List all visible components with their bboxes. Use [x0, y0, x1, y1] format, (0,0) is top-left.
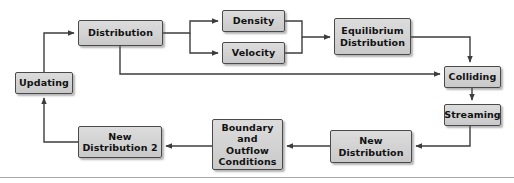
node-colliding[interactable]: Colliding — [444, 66, 501, 88]
node-updating[interactable]: Updating — [15, 72, 73, 94]
edge-newdist2-to-updating — [44, 98, 78, 142]
node-newdist[interactable]: New Distribution — [330, 130, 412, 163]
edge-distribution-to-density — [163, 21, 218, 33]
node-label: New Distribution 2 — [79, 131, 160, 154]
edge-velocity-to-equilibrium — [285, 37, 302, 53]
node-label: Boundary and Outflow Conditions — [213, 122, 282, 168]
node-label: Colliding — [446, 71, 500, 83]
node-label: Equilibrium Distribution — [337, 25, 408, 48]
bottom-divider — [0, 177, 514, 178]
node-density[interactable]: Density — [222, 10, 285, 32]
node-boundary[interactable]: Boundary and Outflow Conditions — [212, 119, 283, 170]
edge-density-to-equilibrium — [285, 21, 330, 37]
node-label: Updating — [16, 77, 72, 89]
node-label: New Distribution — [335, 135, 406, 158]
node-label: Streaming — [441, 109, 504, 121]
node-newdist2[interactable]: New Distribution 2 — [78, 126, 162, 158]
flowchart-diagram: UpdatingDistributionDensityVelocityEquil… — [0, 0, 514, 183]
node-distribution[interactable]: Distribution — [78, 20, 163, 46]
node-equilibrium[interactable]: Equilibrium Distribution — [334, 18, 411, 55]
edge-equilibrium-to-colliding — [411, 37, 470, 62]
node-label: Density — [230, 15, 277, 27]
edge-streaming-to-newdist — [416, 126, 470, 146]
node-label: Distribution — [85, 27, 156, 39]
node-streaming[interactable]: Streaming — [444, 104, 501, 126]
node-label: Velocity — [229, 47, 278, 59]
edge-updating-to-distribution — [44, 33, 74, 72]
node-velocity[interactable]: Velocity — [222, 42, 285, 64]
edge-distribution-to-velocity — [190, 33, 218, 53]
